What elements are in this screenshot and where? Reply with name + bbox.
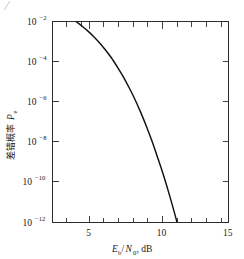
y-tick-label-base: 10 [23,218,33,228]
ber-chart: 10 −2 10 −4 10 −6 10 −8 10 −10 10 −12 5 … [0,0,244,259]
y-axis-title-cjk: 差错概率 [5,124,16,160]
y-axis-title-symbol-sub: e [11,111,18,114]
x-axis-title: E b / N 0 , dB [111,244,152,256]
x-tick-label: 15 [223,228,233,238]
x-axis-title-main2: N [125,244,133,254]
x-tick-label: 5 [86,228,91,238]
y-axis-title: 差错概率 P e [5,111,18,161]
y-tick-label-exp: −4 [40,54,48,61]
y-axis-ticks-right [223,62,229,182]
y-tick-label-base: 10 [27,97,37,107]
x-axis-title-slash: / [122,244,125,254]
plot-frame [53,22,229,223]
y-tick-labels: 10 −2 10 −4 10 −6 10 −8 10 −10 10 −12 [23,14,48,228]
y-tick-label-base: 10 [27,57,37,67]
y-axis-ticks [53,22,60,223]
figure-container: 10 −2 10 −4 10 −6 10 −8 10 −10 10 −12 5 … [0,0,244,259]
y-tick-label-exp: −12 [35,215,45,222]
data-series-group [76,22,182,241]
y-tick-label-exp: −6 [40,94,48,101]
ber-curve [76,22,182,241]
x-axis-title-main1: E [111,244,118,254]
y-tick-label-exp: −2 [40,14,47,21]
y-tick-label-base: 10 [27,137,37,147]
corner-artifact-icon [4,1,10,10]
x-tick-label: 10 [157,228,167,238]
y-tick-label-base: 10 [23,177,33,187]
y-tick-label-exp: −10 [35,174,46,181]
y-axis-title-symbol: P [6,114,16,121]
x-axis-title-tail: , dB [137,244,153,254]
y-tick-label-base: 10 [27,17,37,27]
x-axis-ticks-top [66,22,221,29]
x-axis-ticks [66,216,221,223]
x-tick-labels: 5 10 15 [86,228,232,238]
y-tick-label-exp: −8 [40,134,48,141]
